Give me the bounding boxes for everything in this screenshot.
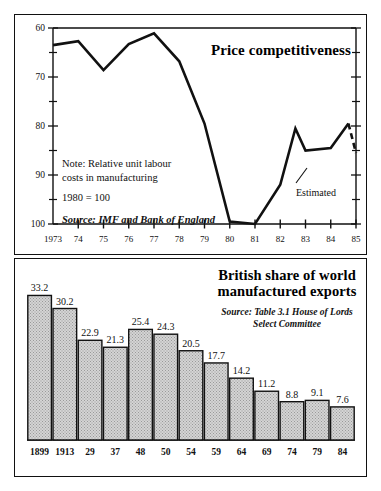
bar-rect <box>53 309 77 440</box>
bar-rect <box>28 295 52 440</box>
bar-rect <box>103 347 127 440</box>
bar-chart-source: Source: Table 3.1 House of LordsSelect C… <box>207 307 367 331</box>
bar: 30.21913 <box>53 296 77 457</box>
line-chart-panel: 607080901001973747576777879808182838485 … <box>14 14 367 255</box>
line-chart-note-line2: costs in manufacturing <box>62 172 158 183</box>
y-tick-label: 60 <box>36 23 46 33</box>
x-tick-label: 1973 <box>44 234 63 244</box>
bar-value-label: 22.9 <box>81 327 99 338</box>
bar-category-label: 64 <box>237 447 247 457</box>
bar-category-label: 69 <box>262 447 272 457</box>
x-tick-label: 78 <box>175 234 185 244</box>
bar-category-label: 79 <box>312 447 322 457</box>
bar: 20.554 <box>179 338 203 457</box>
x-tick-label: 77 <box>150 234 160 244</box>
bar-rect <box>230 378 254 440</box>
bar-value-label: 25.4 <box>132 316 150 327</box>
bar-category-label: 1899 <box>30 447 49 457</box>
bar-chart-title-line2: manufactured exports <box>217 283 356 299</box>
bar-chart-panel: 33.2189930.2191322.92921.33725.44824.350… <box>14 258 367 477</box>
bar-rect <box>78 340 102 440</box>
x-tick-label: 76 <box>124 234 134 244</box>
x-tick-label: 81 <box>251 234 260 244</box>
bar-value-label: 11.2 <box>258 378 275 389</box>
y-tick-label: 80 <box>36 121 46 131</box>
bar-value-label: 33.2 <box>31 282 49 293</box>
bar-rect <box>129 329 153 440</box>
bar-value-label: 7.6 <box>336 394 349 405</box>
bar: 22.929 <box>78 327 102 457</box>
bar-category-label: 29 <box>85 447 95 457</box>
y-tick-label: 90 <box>36 170 46 180</box>
bar: 21.337 <box>103 334 127 457</box>
x-tick-label: 74 <box>74 234 84 244</box>
bar-category-label: 74 <box>287 447 297 457</box>
line-chart-note: Note: Relative unit labourcosts in manuf… <box>62 157 171 185</box>
estimated-leader-line <box>296 168 307 183</box>
bar-rect <box>255 391 279 440</box>
bar-category-label: 50 <box>161 447 171 457</box>
bar-chart-source-line1: Source: Table 3.1 House of Lords <box>221 307 353 317</box>
bar-value-label: 24.3 <box>157 321 175 332</box>
x-tick-label: 80 <box>225 234 235 244</box>
bar-rect <box>179 351 203 440</box>
bar-value-label: 17.7 <box>207 350 225 361</box>
bar: 7.684 <box>331 394 355 457</box>
bar: 25.448 <box>129 316 153 457</box>
x-tick-label: 82 <box>276 234 285 244</box>
bar-category-label: 48 <box>136 447 146 457</box>
figure-page: 607080901001973747576777879808182838485 … <box>0 0 381 491</box>
bar: 33.21899 <box>28 282 52 457</box>
bar: 8.874 <box>280 389 304 457</box>
bar-category-label: 84 <box>338 447 348 457</box>
x-tick-label: 75 <box>99 234 109 244</box>
bar-category-label: 54 <box>186 447 196 457</box>
line-chart-source: Source: IMF and Bank of England <box>62 213 215 227</box>
bar-value-label: 20.5 <box>182 338 200 349</box>
bar-value-label: 30.2 <box>56 296 74 307</box>
bar: 11.269 <box>255 378 279 457</box>
x-tick-label: 85 <box>352 234 362 244</box>
bar-rect <box>305 400 329 440</box>
bar-value-label: 14.2 <box>233 365 251 376</box>
bar-rect <box>280 402 304 440</box>
line-chart-note-line1: Note: Relative unit labour <box>62 158 171 169</box>
bar-rect <box>331 407 355 440</box>
bar: 9.179 <box>305 387 329 457</box>
bar-chart-source-line2: Select Committee <box>253 319 321 329</box>
bar-category-label: 59 <box>211 447 221 457</box>
bar-rect <box>204 363 228 440</box>
bar: 24.350 <box>154 321 178 457</box>
bar-chart-title: British share of worldmanufactured expor… <box>211 267 363 299</box>
estimated-annotation-label: Estimated <box>296 187 336 198</box>
bar-category-label: 37 <box>111 447 121 457</box>
line-chart-note-base: 1980 = 100 <box>62 191 110 205</box>
bar: 17.759 <box>204 350 228 457</box>
x-tick-label: 79 <box>200 234 210 244</box>
x-tick-label: 83 <box>301 234 311 244</box>
bar-rect <box>154 334 178 440</box>
bar: 14.264 <box>230 365 254 457</box>
bar-value-label: 9.1 <box>311 387 324 398</box>
y-tick-label: 100 <box>31 219 46 229</box>
bar-value-label: 21.3 <box>107 334 125 345</box>
bar-category-label: 1913 <box>55 447 74 457</box>
x-tick-label: 84 <box>326 234 336 244</box>
price-competitiveness-estimated-segment <box>348 124 356 153</box>
bar-chart-title-line1: British share of world <box>218 267 356 283</box>
bar-value-label: 8.8 <box>286 389 299 400</box>
y-tick-label: 70 <box>36 72 46 82</box>
line-chart-title: Price competitiveness <box>211 42 351 59</box>
